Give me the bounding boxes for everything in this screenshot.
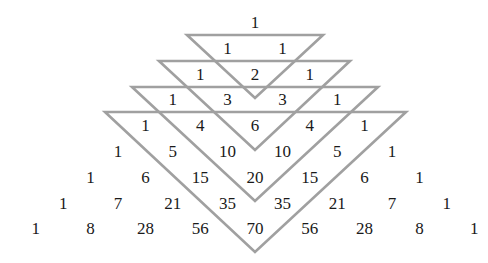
pascal-entry: 1 xyxy=(59,194,68,211)
pascal-entry: 1 xyxy=(223,39,232,56)
pascal-entry: 1 xyxy=(169,91,178,108)
pascal-entry: 10 xyxy=(274,143,291,160)
pascal-entry: 1 xyxy=(360,117,369,134)
pascal-entry: 6 xyxy=(360,168,369,185)
pascal-entry: 20 xyxy=(247,168,264,185)
pascal-entry: 1 xyxy=(388,143,397,160)
pascal-entry: 1 xyxy=(32,220,41,237)
pascal-entry: 1 xyxy=(141,117,150,134)
pascal-entry: 6 xyxy=(251,117,260,134)
pascal-entry: 10 xyxy=(219,143,236,160)
pascal-entry: 21 xyxy=(329,194,346,211)
pascal-entry: 15 xyxy=(301,168,318,185)
pascal-entry: 8 xyxy=(86,220,95,237)
pascal-entry: 1 xyxy=(86,168,95,185)
pascal-entry: 35 xyxy=(219,194,236,211)
pascal-entry: 4 xyxy=(306,117,315,134)
pascal-entry: 35 xyxy=(274,194,291,211)
pascal-entry: 3 xyxy=(278,91,287,108)
pascal-entry: 1 xyxy=(415,168,424,185)
pascal-entry: 1 xyxy=(251,14,260,31)
pascal-entry: 1 xyxy=(196,65,205,82)
pascal-entry: 3 xyxy=(223,91,232,108)
pascal-entry: 2 xyxy=(251,65,260,82)
pascal-entry: 70 xyxy=(247,220,264,237)
pascal-entry: 1 xyxy=(443,194,452,211)
pascal-entry: 15 xyxy=(192,168,209,185)
pascal-entry: 21 xyxy=(164,194,181,211)
pascal-entry: 1 xyxy=(278,39,287,56)
pascal-entry: 8 xyxy=(415,220,424,237)
pascal-triangle-diagram: 1111211331146411510105116152015611721353… xyxy=(0,0,488,263)
pascal-entry: 56 xyxy=(192,220,209,237)
pascal-entry: 6 xyxy=(141,168,150,185)
pascal-entry: 28 xyxy=(356,220,373,237)
pascal-entry: 28 xyxy=(137,220,154,237)
pascal-entry: 1 xyxy=(114,143,123,160)
pascal-entry: 56 xyxy=(301,220,318,237)
pascal-entry: 5 xyxy=(333,143,342,160)
pascal-entry: 1 xyxy=(306,65,315,82)
pascal-entry: 5 xyxy=(169,143,178,160)
pascal-entry: 7 xyxy=(388,194,397,211)
pascal-entry: 1 xyxy=(470,220,479,237)
pascal-entry: 1 xyxy=(333,91,342,108)
pascal-entry: 7 xyxy=(114,194,123,211)
pascal-entry: 4 xyxy=(196,117,205,134)
